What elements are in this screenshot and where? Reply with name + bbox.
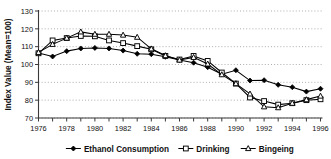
x-tick-label-1992: 1992: [256, 124, 272, 133]
chart-background: [0, 0, 331, 159]
legend-label: Ethanol Consumption: [84, 145, 169, 154]
x-tick-label-1982: 1982: [115, 124, 131, 133]
x-tick-label-1976: 1976: [30, 124, 46, 133]
y-tick-label-120: 120: [21, 25, 33, 34]
x-tick-label-1980: 1980: [87, 124, 103, 133]
x-tick-label-1994: 1994: [284, 124, 300, 133]
legend-label: Bingeing: [259, 145, 294, 154]
x-tick-label-1996: 1996: [312, 124, 328, 133]
marker-open-square: [135, 44, 140, 49]
line-chart: 708090100110120130 197619781980198219841…: [0, 0, 331, 159]
y-tick-label-110: 110: [21, 42, 33, 51]
marker-open-square: [121, 41, 126, 46]
chart-figure: 708090100110120130 197619781980198219841…: [0, 0, 331, 159]
y-tick-label-70: 70: [25, 114, 33, 123]
marker-open-square: [107, 38, 112, 43]
x-tick-label-1990: 1990: [228, 124, 244, 133]
y-tick-label-130: 130: [21, 7, 33, 16]
marker-open-square: [183, 146, 188, 151]
y-axis-title: Index Value (Mean=100): [4, 18, 13, 110]
x-tick-label-1986: 1986: [171, 124, 187, 133]
y-axis-label: Index Value (Mean=100): [4, 18, 13, 110]
marker-open-square: [262, 99, 267, 104]
x-tick-label-1984: 1984: [143, 124, 159, 133]
y-tick-label-80: 80: [25, 96, 33, 105]
y-tick-label-90: 90: [25, 78, 33, 87]
legend-label: Drinking: [196, 145, 229, 154]
x-tick-label-1988: 1988: [199, 124, 215, 133]
y-tick-label-100: 100: [21, 60, 33, 69]
x-tick-label-1978: 1978: [58, 124, 74, 133]
